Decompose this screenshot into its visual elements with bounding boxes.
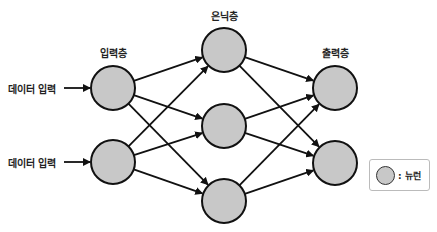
input-neuron [91, 66, 135, 110]
input-layer-title: 입력층 [100, 45, 127, 60]
legend-text: : 뉴런 [398, 169, 421, 182]
output-neuron [313, 141, 357, 185]
network-diagram [0, 0, 437, 232]
data-input-label-2: 데이터 입력 [8, 155, 56, 170]
hidden-neuron [202, 104, 246, 148]
connection-arrow [245, 95, 313, 118]
connection-arrow [245, 57, 313, 80]
output-layer-title: 출력층 [322, 45, 349, 60]
output-neuron [313, 66, 357, 110]
connection-arrow [245, 170, 313, 193]
hidden-layer-title: 은닉층 [211, 8, 238, 23]
hidden-neuron [202, 28, 246, 72]
connection-arrow [134, 133, 202, 155]
input-neuron [91, 140, 135, 184]
connection-arrow [134, 169, 203, 193]
hidden-neuron [202, 179, 246, 223]
connection-arrow [134, 57, 202, 80]
neurons [91, 28, 357, 223]
legend: : 뉴런 [369, 159, 430, 191]
data-input-label-1: 데이터 입력 [8, 81, 56, 96]
neuron-legend-icon [376, 166, 395, 185]
